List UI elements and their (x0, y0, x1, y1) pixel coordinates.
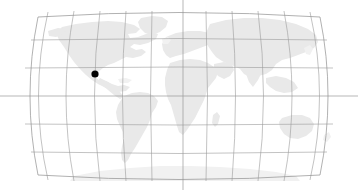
location-marker[interactable] (91, 70, 98, 77)
world-locator-map (0, 0, 358, 190)
marker-layer[interactable] (91, 70, 98, 77)
map-canvas (0, 0, 358, 190)
